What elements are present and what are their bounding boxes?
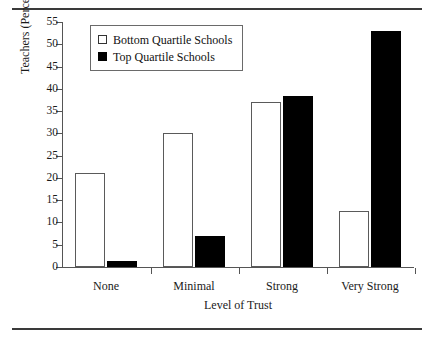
bar-group (251, 22, 313, 267)
y-axis-line (62, 22, 63, 268)
y-tick-label: 35 (47, 105, 59, 117)
x-tick-mark (151, 268, 152, 274)
y-tick-label: 30 (47, 128, 59, 140)
bar-group (339, 22, 401, 267)
open-square-icon (98, 35, 107, 44)
figure-container: Teachers (Percentage) 051015202530354045… (0, 0, 434, 342)
y-tick: 30 (62, 133, 63, 134)
y-tick: 5 (62, 245, 63, 246)
y-tick: 35 (62, 111, 63, 112)
x-tick-label: Very Strong (310, 280, 430, 292)
filled-square-icon (98, 52, 107, 61)
legend-item-label: Top Quartile Schools (113, 51, 215, 63)
x-tick-mark (415, 268, 416, 274)
bar (283, 96, 313, 268)
x-tick-mark (239, 268, 240, 274)
bar (195, 236, 225, 267)
bar (339, 211, 369, 267)
y-tick-label: 45 (47, 61, 59, 73)
bottom-rule (12, 328, 422, 330)
y-tick-label: 5 (52, 239, 58, 251)
bar (371, 31, 401, 267)
y-tick-label: 25 (47, 150, 59, 162)
x-tick-mark (327, 268, 328, 274)
y-tick-label: 55 (47, 16, 59, 28)
y-axis-title: Teachers (Percentage) (18, 0, 34, 144)
x-axis-title: Level of Trust (62, 298, 414, 313)
top-rule (12, 8, 422, 10)
x-axis-line (62, 267, 414, 268)
y-tick-label: 40 (47, 83, 59, 95)
legend-item: Top Quartile Schools (98, 48, 232, 65)
y-tick-label: 20 (47, 172, 59, 184)
legend-item-label: Bottom Quartile Schools (113, 34, 232, 46)
y-tick: 20 (62, 178, 63, 179)
y-tick: 10 (62, 222, 63, 223)
bar (163, 133, 193, 267)
y-tick-label: 10 (47, 217, 59, 229)
y-tick: 0 (62, 267, 63, 268)
y-tick: 25 (62, 156, 63, 157)
y-tick: 45 (62, 67, 63, 68)
y-tick-label: 0 (52, 261, 58, 273)
bar (75, 173, 105, 267)
legend-item: Bottom Quartile Schools (98, 31, 232, 48)
y-tick-label: 15 (47, 194, 59, 206)
y-tick: 15 (62, 200, 63, 201)
y-tick: 55 (62, 22, 63, 23)
y-tick: 50 (62, 44, 63, 45)
bar (107, 261, 137, 267)
y-tick: 40 (62, 89, 63, 90)
bar (251, 102, 281, 267)
chart-legend: Bottom Quartile Schools Top Quartile Sch… (90, 25, 243, 71)
y-tick-label: 50 (47, 39, 59, 51)
